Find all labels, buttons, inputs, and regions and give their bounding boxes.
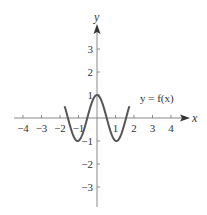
y-tick-label: −2	[81, 158, 93, 170]
y-tick-label: 2	[88, 66, 94, 78]
x-tick-label: 1	[113, 122, 119, 134]
x-tick-label: 2	[131, 122, 137, 134]
x-tick-label: −3	[36, 122, 48, 134]
curve-label: y = f(x)	[140, 92, 174, 105]
y-tick-label: 3	[88, 43, 94, 55]
x-tick-label: −2	[54, 122, 66, 134]
x-tick-label: 4	[168, 122, 174, 134]
x-tick-label: −4	[17, 122, 29, 134]
x-axis-label: x	[191, 111, 198, 125]
y-tick-label: −3	[81, 181, 93, 193]
chart: −4−3−2−11234321−1−2−3 x y y = f(x)	[0, 0, 207, 215]
y-tick-label: −1	[81, 135, 93, 147]
axes	[14, 24, 190, 207]
x-tick-label: 3	[150, 122, 156, 134]
y-axis-label: y	[93, 10, 100, 24]
